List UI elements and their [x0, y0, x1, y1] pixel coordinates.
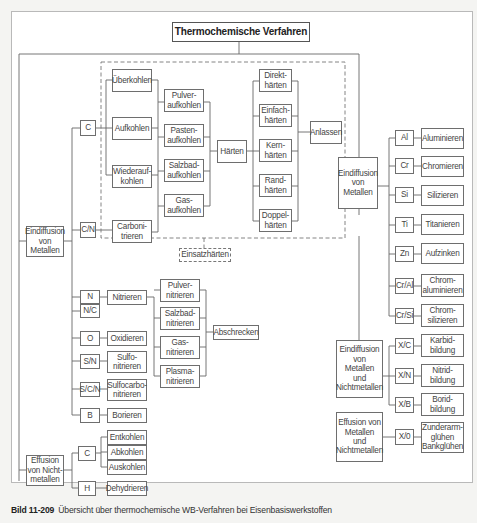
node-pastenaufkohlen: Pasten- aufkohlen [164, 124, 204, 147]
node-borieren: Borieren [107, 408, 147, 423]
node-eindiffusion-metallen-nichtmetallen: Eindiffusion von Metallen und Nichtmetal… [336, 340, 383, 398]
node-sulfocarbonitrieren: Sulfocarbo- nitrieren [107, 379, 147, 401]
node-pulveraufkohlen: Pulver- aufkohlen [164, 89, 204, 112]
node-element-c-effusion: C [78, 446, 96, 461]
node-chromieren: Chromieren [421, 156, 464, 177]
node-element-zn: Zn [395, 246, 414, 262]
node-element-crsi: Cr/Si [395, 308, 414, 324]
node-aufzinken: Aufzinken [421, 243, 464, 264]
node-kernhaerten: Kern- härten [259, 139, 292, 162]
label-einsatzhaerten: Einsatzhärten [179, 248, 231, 262]
node-element-scn: S/C/N [80, 382, 100, 397]
node-abschrecken: Abschrecken [213, 325, 259, 340]
node-eindiffusion-metallen-right: Eindiffusion von Metallen [338, 157, 378, 209]
node-element-cn: C/N [80, 222, 96, 238]
node-oxidieren: Oxidieren [107, 331, 147, 346]
node-plasmanitrieren: Plasma- nitrieren [160, 365, 200, 388]
node-pulvernitrieren: Pulver- nitrieren [160, 279, 200, 302]
node-boridbildung: Borid- bildung [421, 393, 464, 416]
node-direkthaerten: Direkt- härten [259, 69, 292, 92]
node-effusion-nichtmetallen: Effusion von Nicht- metallen [26, 455, 64, 486]
node-silizieren: Silizieren [421, 185, 464, 206]
node-haerten: Härten [217, 140, 247, 163]
node-element-xb: X/B [395, 397, 414, 413]
node-aufkohlen: Aufkohlen [112, 117, 152, 140]
node-element-nc: N/C [80, 304, 100, 318]
node-element-si: Si [395, 187, 414, 203]
caption-text: Übersicht über thermochemische WB-Verfah… [58, 505, 332, 515]
node-element-cral: Cr/Al [395, 278, 414, 294]
node-element-o: O [80, 331, 100, 346]
node-zunderarmgluehen: Zunderarm- glühen Bankglühen [421, 422, 464, 453]
node-chromsilizieren: Chrom- silizieren [421, 304, 464, 327]
caption-number: Bild 11-209 [11, 505, 54, 515]
node-salzbadnitrieren: Salzbad- nitrieren [160, 307, 200, 330]
node-auskohlen: Auskohlen [107, 460, 147, 475]
node-abkohlen: Abkohlen [107, 445, 147, 460]
node-element-n: N [80, 290, 100, 304]
node-sulfonitrieren: Sulfo- nitrieren [107, 351, 147, 373]
node-randhaerten: Rand- härten [259, 174, 292, 197]
node-nitrieren: Nitrieren [107, 290, 147, 305]
node-element-x0: X/0 [395, 429, 414, 445]
node-wiederaufkohlen: Wiederauf- kohlen [112, 165, 152, 188]
node-salzbadaufkohlen: Salzbad- aufkohlen [164, 159, 204, 182]
node-element-cr: Cr [395, 158, 414, 174]
node-karbidbildung: Karbid- bildung [421, 334, 464, 357]
node-carbonitrieren: Carboni- trieren [112, 220, 152, 243]
node-element-ti: Ti [395, 217, 414, 233]
node-element-sn: S/N [80, 354, 100, 369]
diagram-title: Thermochemische Verfahren [172, 22, 310, 42]
node-doppelhaerten: Doppel- härten [259, 209, 292, 232]
node-titanieren: Titanieren [421, 214, 464, 235]
node-effusion-metallen-nichtmetallen: Effusion von Metallen und Nichtmetallen [336, 412, 383, 462]
node-anlassen: Anlassen [310, 121, 342, 144]
node-eindiffusion-metallen-left: Eindiffusion von Metallen [26, 226, 64, 257]
node-nitridbildung: Nitrid- bildung [421, 364, 464, 387]
figure-caption: Bild 11-209Übersicht über thermochemisch… [11, 505, 332, 515]
node-entkohlen: Entkohlen [107, 430, 147, 445]
node-element-h: H [78, 481, 96, 496]
node-chromaluminieren: Chrom- aluminieren [421, 274, 464, 297]
node-element-al: Al [395, 130, 414, 146]
node-einfachhaerten: Einfach- härten [259, 104, 292, 127]
node-element-xn: X/N [395, 368, 414, 384]
node-element-xc: X/C [395, 338, 414, 354]
node-ueberkohlen: Überkohlen [112, 69, 152, 92]
node-gasnitrieren: Gas- nitrieren [160, 336, 200, 359]
node-element-b: B [80, 408, 100, 423]
node-element-c: C [80, 120, 96, 136]
node-dehydrieren: Dehydrieren [107, 481, 147, 496]
node-aluminieren: Aluminieren [421, 128, 464, 149]
node-gasaufkohlen: Gas- aufkohlen [164, 194, 204, 217]
